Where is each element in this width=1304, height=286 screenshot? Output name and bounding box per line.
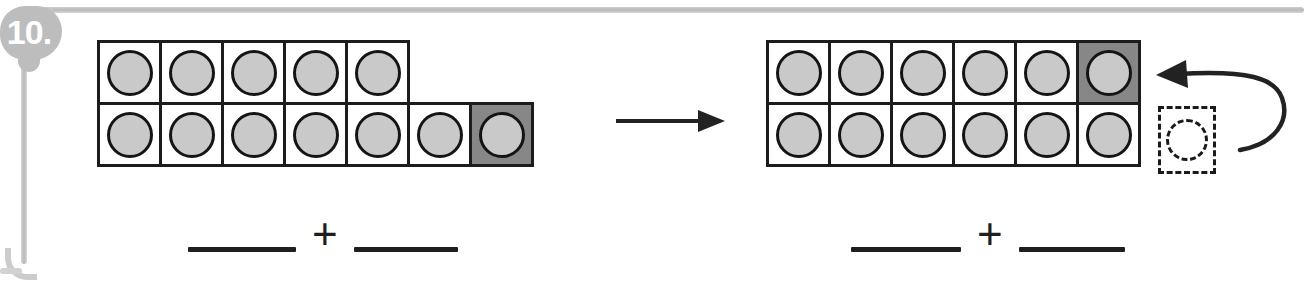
left-cell-0-1 xyxy=(159,40,224,105)
left-cell-1-1 xyxy=(159,102,224,167)
left-cell-1-6-shaded xyxy=(469,102,534,167)
right-cell-1-3 xyxy=(952,102,1017,167)
counter-disc xyxy=(107,112,153,158)
counter-disc xyxy=(169,50,215,96)
right-cell-1-4 xyxy=(1014,102,1079,167)
worksheet-problem: 10. xyxy=(0,0,1304,286)
left-cell-0-2 xyxy=(221,40,286,105)
left-plus-operator: + xyxy=(312,222,338,246)
left-cell-0-4 xyxy=(345,40,410,105)
right-plus-operator: + xyxy=(977,222,1003,246)
right-blank-1[interactable] xyxy=(851,247,961,252)
right-cell-1-5 xyxy=(1076,102,1141,167)
left-blank-2[interactable] xyxy=(354,247,458,252)
right-blank-2[interactable] xyxy=(1019,247,1125,252)
transform-arrow-icon xyxy=(612,100,727,142)
counter-disc xyxy=(962,50,1008,96)
right-cell-0-4 xyxy=(1014,40,1079,105)
left-frame-row-top xyxy=(97,40,531,102)
left-cell-1-4 xyxy=(345,102,410,167)
left-cell-1-3 xyxy=(283,102,348,167)
right-cell-0-3 xyxy=(952,40,1017,105)
left-blank-1[interactable] xyxy=(188,247,296,252)
counter-disc xyxy=(900,50,946,96)
counter-disc xyxy=(355,50,401,96)
problem-number-label: 10. xyxy=(7,15,51,49)
counter-disc xyxy=(355,112,401,158)
counter-disc xyxy=(962,112,1008,158)
counter-disc xyxy=(838,50,884,96)
counter-disc xyxy=(231,112,277,158)
right-cell-0-0 xyxy=(766,40,831,105)
left-cell-0-3 xyxy=(283,40,348,105)
left-cell-1-2 xyxy=(221,102,286,167)
left-number-sentence: + xyxy=(188,222,458,252)
counter-disc xyxy=(479,112,525,158)
frame-top-rule xyxy=(38,7,1304,13)
counter-disc xyxy=(1024,112,1070,158)
problem-number-badge: 10. xyxy=(0,6,62,60)
right-frame-row-top xyxy=(766,40,1138,102)
right-number-sentence: + xyxy=(851,222,1125,252)
move-counter-arrow-icon xyxy=(1144,52,1304,162)
right-frame-row-bottom xyxy=(766,102,1138,164)
counter-disc xyxy=(1024,50,1070,96)
left-cell-1-0 xyxy=(97,102,162,167)
right-cell-0-2 xyxy=(890,40,955,105)
left-frame-row-bottom xyxy=(97,102,531,164)
left-cell-0-0 xyxy=(97,40,162,105)
counter-disc xyxy=(107,50,153,96)
right-cell-1-2 xyxy=(890,102,955,167)
counter-disc xyxy=(776,50,822,96)
counter-disc xyxy=(1086,50,1132,96)
counter-disc xyxy=(293,50,339,96)
right-ten-frame xyxy=(766,40,1138,164)
counter-disc xyxy=(293,112,339,158)
counter-disc xyxy=(169,112,215,158)
counter-disc xyxy=(1086,112,1132,158)
frame-bottom-stub xyxy=(0,268,22,274)
left-cell-1-5 xyxy=(407,102,472,167)
right-cell-0-1 xyxy=(828,40,893,105)
counter-disc xyxy=(417,112,463,158)
frame-corner-bottom-left xyxy=(5,248,37,280)
counter-disc xyxy=(776,112,822,158)
counter-disc xyxy=(838,112,884,158)
right-cell-1-1 xyxy=(828,102,893,167)
right-cell-1-0 xyxy=(766,102,831,167)
counter-disc xyxy=(231,50,277,96)
counter-disc xyxy=(900,112,946,158)
right-cell-0-5-shaded xyxy=(1076,40,1141,105)
left-ten-frame xyxy=(97,40,531,164)
